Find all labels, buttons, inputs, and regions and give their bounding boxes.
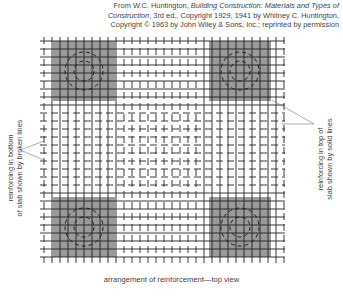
left-label-line1: reinforcing in bottom bbox=[6, 108, 15, 228]
right-label-line2: slab shown by solid lines bbox=[325, 104, 334, 214]
right-leader-line bbox=[272, 100, 314, 124]
bottom-reinforcing-label: reinforcing in bottom of slab shown by b… bbox=[6, 108, 24, 228]
reinforcement-diagram bbox=[0, 0, 343, 296]
column-panel-bottom-right bbox=[209, 197, 271, 257]
top-reinforcing-label: reinforcing in top of slab shown by soli… bbox=[316, 104, 334, 214]
left-label-line2: of slab shown by broken lines bbox=[15, 108, 24, 228]
column-panel-top-right bbox=[209, 41, 271, 101]
diagram-caption: arrangement of reinforcement—top view bbox=[0, 275, 343, 284]
right-label-line1: reinforcing in top of bbox=[316, 104, 325, 214]
